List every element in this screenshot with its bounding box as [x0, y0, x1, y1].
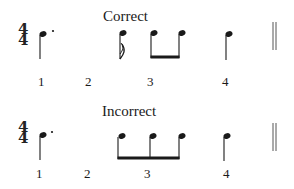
beat-number: 2: [84, 166, 91, 182]
dotted-quarter-note-icon: [39, 131, 54, 160]
quarter-note-icon: [223, 132, 232, 161]
double-barline-icon: [273, 123, 276, 151]
beat-number: 1: [36, 166, 43, 182]
beamed-three-notes-icon: [118, 132, 187, 160]
notation-incorrect: [0, 0, 294, 189]
beat-number: 4: [223, 166, 230, 182]
beat-number: 3: [144, 166, 151, 182]
